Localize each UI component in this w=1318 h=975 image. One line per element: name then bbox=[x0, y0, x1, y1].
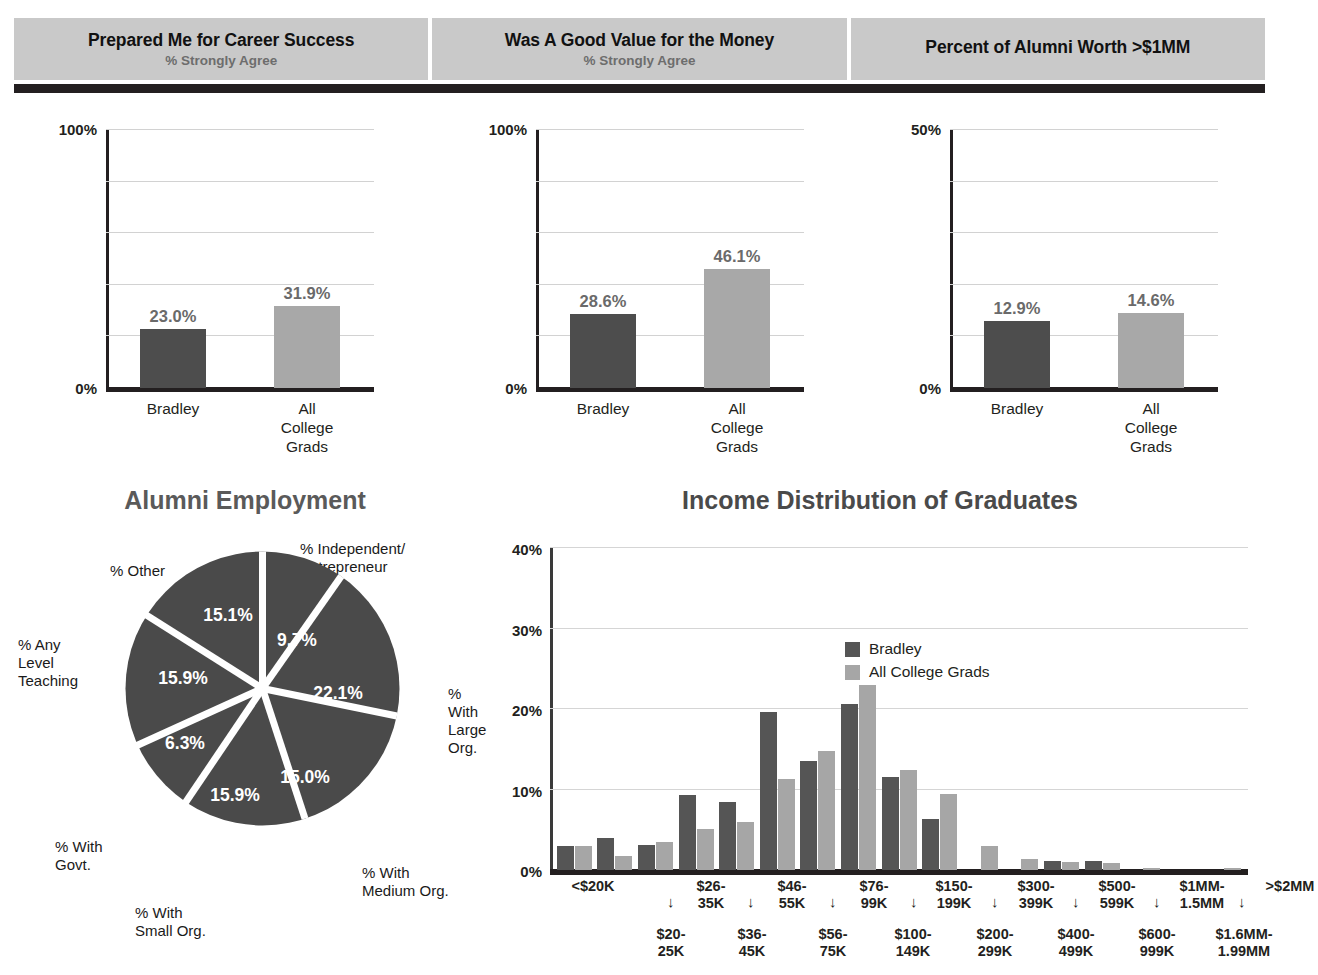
category-label-bradley: Bradley bbox=[561, 400, 645, 457]
bar-all-college-grads[interactable] bbox=[1118, 313, 1184, 388]
y-tick-bottom-1: 0% bbox=[458, 380, 536, 397]
pie-chart[interactable]: 9.7% 22.1% 15.0% 15.9% 6.3% 15.9% 15.1% bbox=[125, 551, 400, 826]
bar-group bbox=[716, 548, 757, 870]
pie-value-other: 15.1% bbox=[203, 605, 253, 625]
category-label-bradley: Bradley bbox=[131, 400, 215, 457]
pie-chart-title: Alumni Employment bbox=[0, 486, 490, 515]
pie-label-large-org: % WithLarge Org. bbox=[448, 685, 490, 757]
bar-bradley[interactable] bbox=[557, 846, 574, 870]
header-subtitle-1: % Strongly Agree bbox=[583, 53, 695, 69]
bar-item[interactable]: 23.0% bbox=[131, 130, 215, 388]
bar-all-college-grads[interactable] bbox=[1224, 868, 1241, 870]
header-cell-2: Percent of Alumni Worth >$1MM bbox=[851, 18, 1265, 80]
pie-value-large-org: 22.1% bbox=[313, 683, 363, 703]
category-label-all-college-grads: AllCollegeGrads bbox=[695, 400, 779, 457]
bar-item[interactable]: 14.6% bbox=[1109, 130, 1193, 388]
bars-group-2: 12.9% 14.6% bbox=[950, 130, 1218, 388]
bar-group bbox=[1163, 548, 1204, 870]
pie-label-any-level-teaching: % AnyLevelTeaching bbox=[18, 636, 78, 690]
income-y-tick-40: 40% bbox=[494, 541, 550, 558]
x-label-16mm-199mm: $1.6MM-1.99MM bbox=[1194, 926, 1294, 961]
category-label-all-college-grads: AllCollegeGrads bbox=[1109, 400, 1193, 457]
bar-group bbox=[1122, 548, 1163, 870]
bar-bradley[interactable] bbox=[638, 845, 655, 870]
income-y-tick-10: 10% bbox=[494, 783, 550, 800]
category-label-all-college-grads: AllCollegeGrads bbox=[265, 400, 349, 457]
x-label-36-45k: $36-45K bbox=[717, 926, 787, 961]
bar-all-college-grads[interactable] bbox=[778, 779, 795, 870]
y-tick-top-0: 100% bbox=[28, 121, 106, 138]
header-cell-0: Prepared Me for Career Success % Strongl… bbox=[14, 18, 428, 80]
bar-all-college-grads[interactable] bbox=[940, 794, 957, 871]
bar-group bbox=[879, 548, 920, 870]
x-label-150-199k: $150-199K bbox=[919, 878, 989, 913]
bar-bradley[interactable] bbox=[140, 329, 206, 388]
bar-bradley[interactable] bbox=[922, 819, 939, 870]
bar-group bbox=[798, 548, 839, 870]
bar-chart-panel-career-success: 100% 0% 23.0% 31.9% Bradley AllCollegeGr… bbox=[18, 118, 428, 478]
income-y-tick-30: 30% bbox=[494, 622, 550, 639]
pie-label-small-org: % WithSmall Org. bbox=[135, 904, 206, 940]
bar-all-college-grads[interactable] bbox=[1021, 859, 1038, 870]
bar-all-college-grads[interactable] bbox=[274, 306, 340, 388]
bar-all-college-grads[interactable] bbox=[615, 856, 632, 871]
bar-all-college-grads[interactable] bbox=[704, 269, 770, 388]
x-label-200-299k: $200-299K bbox=[960, 926, 1030, 961]
bar-bradley[interactable] bbox=[1044, 861, 1061, 870]
bar-bradley[interactable] bbox=[719, 802, 736, 870]
bar-group bbox=[919, 548, 960, 870]
plot-area-2: 50% 0% 12.9% 14.6% bbox=[950, 130, 1218, 388]
bar-bradley[interactable] bbox=[800, 761, 817, 871]
income-x-labels: <$20K ↓ $20-25K $26-35K ↓ $36-45K $46-55… bbox=[554, 878, 1244, 973]
bar-all-college-grads[interactable] bbox=[656, 842, 673, 870]
x-label-600-999k: $600-999K bbox=[1122, 926, 1192, 961]
bar-item[interactable]: 28.6% bbox=[561, 130, 645, 388]
bar-group bbox=[838, 548, 879, 870]
bar-all-college-grads[interactable] bbox=[1143, 868, 1160, 870]
bar-bradley[interactable] bbox=[882, 777, 899, 870]
x-label-lt20k: <$20K bbox=[558, 878, 628, 895]
bar-all-college-grads[interactable] bbox=[737, 822, 754, 870]
bar-all-college-grads[interactable] bbox=[575, 846, 592, 870]
bar-all-college-grads[interactable] bbox=[1103, 863, 1120, 870]
x-arrow-icon: ↓ bbox=[667, 894, 675, 909]
x-label-56-75k: $56-75K bbox=[798, 926, 868, 961]
header-band: Prepared Me for Career Success % Strongl… bbox=[14, 18, 1265, 80]
bar-all-college-grads[interactable] bbox=[818, 751, 835, 870]
x-label-500-599k: $500-599K bbox=[1082, 878, 1152, 913]
x-label-20-25k: $20-25K bbox=[636, 926, 706, 961]
bar-bradley[interactable] bbox=[841, 704, 858, 870]
bar-bradley[interactable] bbox=[597, 838, 614, 870]
y-tick-top-1: 100% bbox=[458, 121, 536, 138]
header-cell-1: Was A Good Value for the Money % Strongl… bbox=[432, 18, 846, 80]
x-arrow-icon: ↓ bbox=[1238, 894, 1246, 909]
bar-group bbox=[1041, 548, 1082, 870]
bars-group-0: 23.0% 31.9% bbox=[106, 130, 374, 388]
bar-all-college-grads[interactable] bbox=[859, 685, 876, 870]
bar-bradley[interactable] bbox=[679, 795, 696, 870]
bar-value-label: 28.6% bbox=[580, 292, 627, 311]
bar-value-label: 46.1% bbox=[714, 247, 761, 266]
bars-group-1: 28.6% 46.1% bbox=[536, 130, 804, 388]
bar-item[interactable]: 31.9% bbox=[265, 130, 349, 388]
bar-bradley[interactable] bbox=[760, 712, 777, 870]
bar-bradley[interactable] bbox=[570, 314, 636, 388]
bar-group bbox=[1204, 548, 1245, 870]
bar-item[interactable]: 12.9% bbox=[975, 130, 1059, 388]
alumni-employment-section: Alumni Employment % Independent/Entrepre… bbox=[0, 486, 490, 975]
category-labels-1: Bradley AllCollegeGrads bbox=[536, 400, 804, 457]
pie-label-medium-org: % WithMedium Org. bbox=[362, 864, 449, 900]
bar-all-college-grads[interactable] bbox=[697, 829, 714, 870]
income-y-axis bbox=[550, 548, 553, 870]
bar-all-college-grads[interactable] bbox=[981, 846, 998, 870]
x-arrow-icon: ↓ bbox=[910, 894, 918, 909]
bar-bradley[interactable] bbox=[984, 321, 1050, 388]
bar-group bbox=[757, 548, 798, 870]
bar-bradley[interactable] bbox=[1085, 861, 1102, 870]
x-label-1mm-15mm: $1MM-1.5MM bbox=[1160, 878, 1244, 913]
bar-group bbox=[595, 548, 636, 870]
bar-item[interactable]: 46.1% bbox=[695, 130, 779, 388]
bar-all-college-grads[interactable] bbox=[900, 770, 917, 870]
bar-all-college-grads[interactable] bbox=[1062, 862, 1079, 870]
pie-value-govt: 6.3% bbox=[165, 733, 205, 753]
